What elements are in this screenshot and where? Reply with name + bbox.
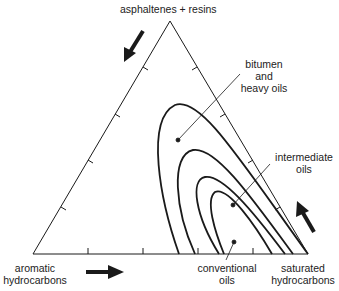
- contour-inner-intermediate: [197, 177, 285, 254]
- arrow-left-edge-icon: [124, 31, 143, 62]
- left-ticks: [61, 67, 148, 210]
- label-line: oils: [272, 163, 336, 175]
- vertex-label-bottom-left: aromatic hydrocarbons: [0, 262, 70, 286]
- region-label-intermediate: intermediate oils: [272, 151, 336, 175]
- ternary-diagram: [0, 0, 339, 291]
- label-line: conventional: [192, 262, 262, 274]
- vertex-label-top: asphaltenes + resins: [120, 3, 217, 15]
- vertex-label-bottom-right: saturated hydrocarbons: [268, 262, 338, 286]
- label-line: aromatic: [0, 262, 70, 274]
- region-label-conventional: conventional oils: [192, 262, 262, 286]
- arrow-bottom-edge-icon: [86, 265, 124, 279]
- label-line: hydrocarbons: [268, 274, 338, 286]
- label-line: oils: [192, 274, 262, 286]
- arrow-right-edge-icon: [296, 201, 314, 232]
- label-line: heavy oils: [234, 82, 294, 94]
- label-line: intermediate: [272, 151, 336, 163]
- label-line: bitumen: [234, 58, 294, 70]
- region-label-bitumen: bitumen and heavy oils: [234, 58, 294, 94]
- label-line: and: [234, 70, 294, 82]
- bottom-ticks: [88, 248, 253, 254]
- label-line: saturated: [268, 262, 338, 274]
- label-line: hydrocarbons: [0, 274, 70, 286]
